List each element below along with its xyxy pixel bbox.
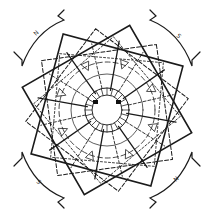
brush-right (116, 100, 121, 104)
diagram-canvas: N S S N (0, 0, 213, 219)
pole-label-top-left: N (32, 29, 40, 37)
winding-diagram: N S S N (0, 0, 213, 219)
pole-shoe-top-right (150, 10, 200, 66)
brush-left (93, 100, 98, 104)
